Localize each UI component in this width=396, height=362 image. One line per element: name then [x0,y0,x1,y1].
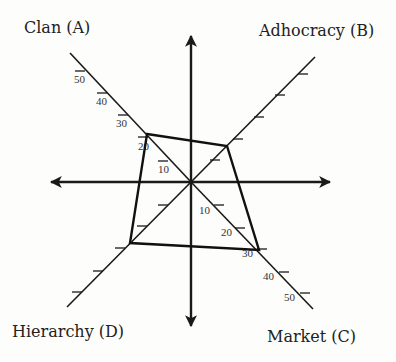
clan-axis [70,53,191,182]
cvf-diagram: 10 20 30 40 50 10 20 30 40 50 Clan (A) A… [0,0,396,362]
clan-tick-10: 10 [158,163,170,175]
diagram-canvas: 10 20 30 40 50 10 20 30 40 50 Clan (A) A… [0,0,396,362]
clan-tick-50: 50 [74,73,86,85]
label-adhocracy: Adhocracy (B) [258,21,374,40]
market-tick-labels: 10 20 30 40 50 [199,204,296,303]
hierarchy-ticks [72,205,168,292]
adhocracy-axis [191,57,315,182]
clan-tick-40: 40 [96,95,108,107]
market-tick-40: 40 [263,270,275,282]
market-tick-10: 10 [199,204,211,216]
market-tick-50: 50 [284,291,296,303]
market-axis [191,182,313,309]
label-market: Market (C) [267,327,356,346]
label-hierarchy: Hierarchy (D) [12,322,124,341]
market-tick-20: 20 [221,226,233,238]
clan-tick-30: 30 [116,117,128,129]
clan-tick-labels: 10 20 30 40 50 [74,73,170,175]
label-clan: Clan (A) [24,18,90,37]
clan-ticks [75,71,168,161]
